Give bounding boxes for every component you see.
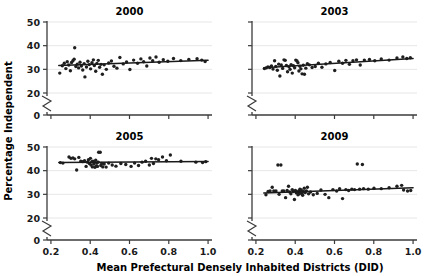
data-point (276, 163, 279, 166)
data-point (157, 158, 160, 161)
scatter-figure: 203040500200020032030405000.20.40.60.81.… (0, 0, 435, 276)
data-point (273, 59, 276, 62)
data-point (86, 60, 89, 63)
data-point (148, 163, 151, 166)
data-point (402, 188, 405, 191)
ytick-label-50: 50 (27, 142, 41, 153)
data-point (72, 57, 75, 60)
data-point (284, 196, 287, 199)
data-point (323, 193, 326, 196)
data-points (264, 162, 412, 201)
data-point (296, 61, 299, 64)
panel-title-2009: 2009 (321, 131, 349, 142)
panel-2003: 2003 (247, 6, 417, 119)
xtick-label-0.4: 0.4 (82, 246, 99, 257)
data-point (161, 155, 164, 158)
y-axis-break-icon (42, 221, 51, 236)
data-point (316, 192, 319, 195)
data-point (303, 73, 306, 76)
y-axis-title: Percentage Independent (3, 61, 14, 201)
data-point (306, 186, 309, 189)
xtick-label-0.8: 0.8 (160, 246, 177, 257)
data-point (64, 67, 67, 70)
data-point (145, 64, 148, 67)
data-point (114, 164, 117, 167)
data-point (279, 163, 282, 166)
xtick-label-0.6: 0.6 (326, 246, 343, 257)
data-point (169, 153, 172, 156)
data-point (303, 186, 306, 189)
data-point (139, 57, 142, 60)
fit-line (59, 161, 208, 162)
data-point (359, 63, 362, 66)
data-point (81, 68, 84, 71)
data-point (97, 59, 100, 62)
data-point (356, 162, 359, 165)
data-point (111, 163, 114, 166)
data-point (77, 156, 80, 159)
data-point (118, 56, 121, 59)
data-point (291, 71, 294, 74)
ytick-label-0: 0 (33, 235, 40, 246)
data-point (83, 75, 86, 78)
data-point (401, 55, 404, 58)
data-point (66, 60, 69, 63)
data-point (128, 68, 131, 71)
xtick-label-0.2: 0.2 (43, 246, 60, 257)
data-point (162, 58, 165, 61)
data-point (77, 66, 80, 69)
data-point (195, 57, 198, 60)
y-axis-break-icon (42, 96, 51, 111)
data-point (96, 165, 99, 168)
data-point (154, 55, 157, 58)
ytick-label-30: 30 (27, 189, 41, 200)
data-point (310, 66, 313, 69)
data-point (406, 189, 409, 192)
panel-title-2003: 2003 (321, 6, 349, 17)
data-point (129, 165, 132, 168)
data-point (112, 65, 115, 68)
data-point (124, 163, 127, 166)
data-point (73, 157, 76, 160)
y-axis-break-icon (247, 96, 256, 111)
panel-title-2000: 2000 (116, 6, 144, 17)
figure-canvas: 203040500200020032030405000.20.40.60.81.… (0, 0, 435, 276)
data-point (286, 70, 289, 73)
data-point (271, 186, 274, 189)
xtick-label-0.2: 0.2 (248, 246, 265, 257)
data-point (137, 164, 140, 167)
ytick-label-40: 40 (27, 165, 41, 176)
xtick-label-0.4: 0.4 (287, 246, 304, 257)
data-point (85, 65, 88, 68)
data-point (150, 157, 153, 160)
data-point (293, 198, 296, 201)
xtick-label-0.6: 0.6 (121, 246, 138, 257)
data-point (320, 66, 323, 69)
data-point (94, 70, 97, 73)
ytick-label-20: 20 (27, 213, 41, 224)
data-point (284, 59, 287, 62)
ytick-label-30: 30 (27, 64, 41, 75)
data-point (92, 58, 95, 61)
panel-title-2005: 2005 (116, 131, 144, 142)
panel-2009: 0.20.40.60.81.02009 (247, 131, 422, 257)
data-point (110, 59, 113, 62)
data-point (105, 68, 108, 71)
data-point (327, 196, 330, 199)
data-point (78, 61, 81, 64)
x-axis-title: Mean Prefectural Densely Inhabited Distr… (97, 262, 384, 273)
ytick-label-50: 50 (27, 17, 41, 28)
data-point (99, 151, 102, 154)
data-point (278, 74, 281, 77)
data-point (355, 58, 358, 61)
data-point (361, 163, 364, 166)
data-point (341, 197, 344, 200)
data-point (89, 157, 92, 160)
data-point (333, 69, 336, 72)
data-point (304, 66, 307, 69)
data-point (400, 184, 403, 187)
data-point (89, 67, 92, 70)
data-point (288, 68, 291, 71)
data-point (63, 61, 66, 64)
data-point (101, 73, 104, 76)
